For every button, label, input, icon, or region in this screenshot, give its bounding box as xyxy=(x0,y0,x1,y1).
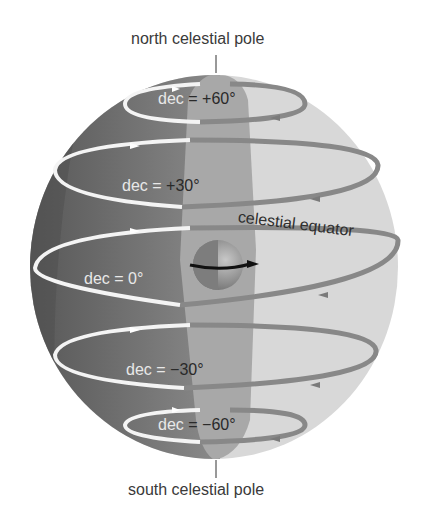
dec-prefix: dec xyxy=(158,90,184,107)
dec-eq: = xyxy=(114,270,123,287)
dec-prefix: dec xyxy=(158,416,184,433)
south-celestial-pole-label: south celestial pole xyxy=(128,481,264,499)
dec-eq: = xyxy=(188,416,197,433)
dec-value: −30° xyxy=(170,361,204,378)
dec-value: +30° xyxy=(166,177,200,194)
dec-eq: = xyxy=(156,361,165,378)
dec-eq: = xyxy=(188,90,197,107)
dec-prefix: dec xyxy=(122,177,148,194)
dec-value: +60° xyxy=(202,90,236,107)
dec-minus-30-label: dec = −30° xyxy=(126,361,204,379)
north-celestial-pole-label: north celestial pole xyxy=(131,30,264,48)
dec-prefix: dec xyxy=(84,270,110,287)
dec-eq: = xyxy=(152,177,161,194)
dec-minus-60-label: dec = −60° xyxy=(158,416,236,434)
dec-plus-60-label: dec = +60° xyxy=(158,90,236,108)
dec-value: 0° xyxy=(128,270,143,287)
dec-zero-label: dec = 0° xyxy=(84,270,143,288)
dec-plus-30-label: dec = +30° xyxy=(122,177,200,195)
dec-prefix: dec xyxy=(126,361,152,378)
dec-value: −60° xyxy=(202,416,236,433)
celestial-sphere-diagram xyxy=(0,0,421,517)
